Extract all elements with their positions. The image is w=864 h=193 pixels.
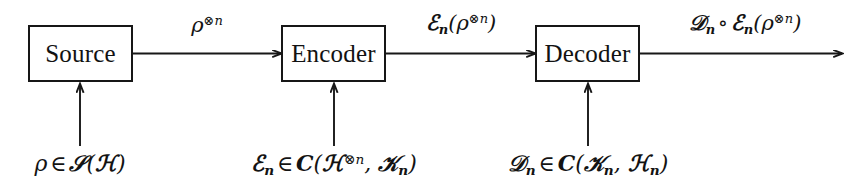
node-source: Source xyxy=(28,25,133,82)
flow-label-decoded-state: 𝒟n∘ℰn(ρ⊗n) xyxy=(689,12,802,36)
node-encoder: Encoder xyxy=(281,25,386,82)
constraint-label-decoder: 𝒟n∈C(𝒦n, ℋn) xyxy=(508,152,668,177)
node-source-label: Source xyxy=(45,41,116,66)
node-decoder: Decoder xyxy=(535,25,640,82)
constraint-label-source: ρ∈𝒮(ℋ) xyxy=(34,152,125,175)
flow-label-encoded-state: ℰn(ρ⊗n) xyxy=(426,12,497,36)
block-diagram: Source Encoder Decoder ρ⊗n ℰn(ρ⊗n) 𝒟n∘ℰn… xyxy=(0,0,864,193)
constraint-label-encoder: ℰn∈C(ℋ⊗n, 𝒦n) xyxy=(251,152,417,177)
node-encoder-label: Encoder xyxy=(291,41,376,66)
flow-label-rho-n: ρ⊗n xyxy=(191,14,223,36)
node-decoder-label: Decoder xyxy=(544,41,630,66)
